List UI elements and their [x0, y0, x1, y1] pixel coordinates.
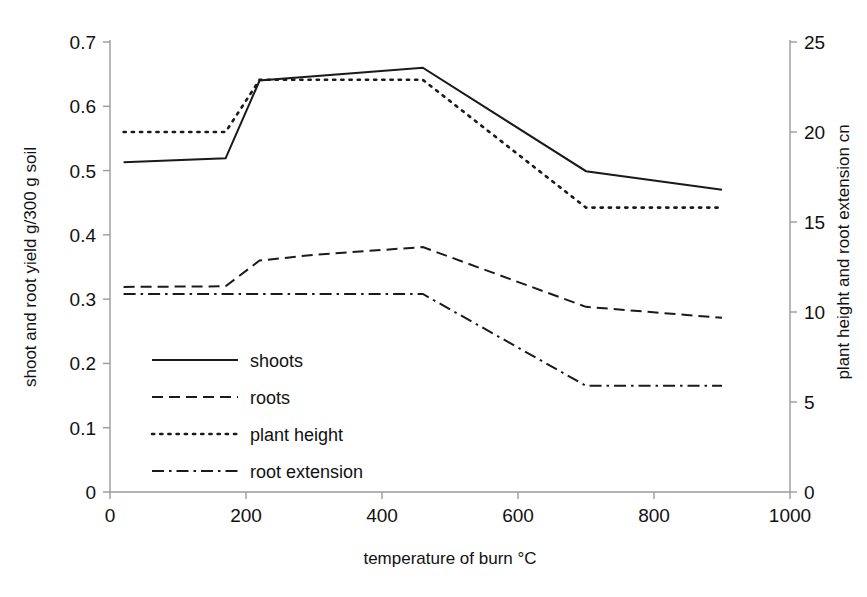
right-axis-title: plant height and root extension cn: [834, 124, 853, 379]
legend-label-root-extension: root extension: [250, 462, 363, 482]
left-tick-label: 0.2: [70, 353, 96, 374]
right-tick-label: 15: [804, 212, 825, 233]
left-tick-label: 0.4: [70, 225, 97, 246]
left-tick-label: 0.5: [70, 161, 96, 182]
left-tick-label: 0.6: [70, 96, 96, 117]
left-tick-label: 0: [85, 482, 96, 503]
x-tick-label: 200: [230, 505, 262, 526]
x-tick-label: 800: [638, 505, 670, 526]
right-tick-label: 5: [804, 392, 815, 413]
right-tick-label: 25: [804, 32, 825, 53]
x-tick-label: 400: [366, 505, 398, 526]
chart-background: [0, 0, 867, 597]
x-tick-label: 600: [502, 505, 534, 526]
x-axis-title: temperature of burn °C: [363, 549, 536, 568]
left-tick-label: 0.3: [70, 289, 96, 310]
x-tick-label: 0: [105, 505, 116, 526]
left-tick-label: 0.7: [70, 32, 96, 53]
chart-figure: 00.10.20.30.40.50.60.7 0510152025 020040…: [0, 0, 867, 597]
legend-label-shoots: shoots: [250, 351, 303, 371]
line-chart-canvas: 00.10.20.30.40.50.60.7 0510152025 020040…: [0, 0, 867, 597]
left-axis-title: shoot and root yield g/300 g soil: [21, 147, 40, 387]
x-tick-label: 1000: [769, 505, 811, 526]
legend-label-plant-height: plant height: [250, 425, 343, 445]
legend-label-roots: roots: [250, 388, 290, 408]
right-tick-label: 10: [804, 302, 825, 323]
right-tick-label: 0: [804, 482, 815, 503]
left-tick-label: 0.1: [70, 418, 96, 439]
right-tick-label: 20: [804, 122, 825, 143]
